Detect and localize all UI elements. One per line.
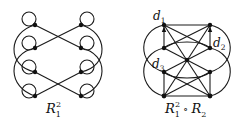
vertex-label-d3: d3 (152, 57, 165, 73)
nodes (33, 23, 83, 98)
left-graph-r1-squared: R12 (14, 12, 102, 119)
vertex-label-d2: d2 (213, 36, 226, 52)
diagram-canvas: R12 (0, 0, 248, 124)
caption-left: R12 (45, 100, 61, 119)
self-loops (22, 12, 94, 98)
crossing-edges (35, 25, 81, 96)
right-graph-composition: d1 d2 d3 R12∘R2 (144, 9, 231, 119)
caption-right: R12∘R2 (164, 100, 206, 119)
vertex-label-d1: d1 (153, 9, 165, 25)
